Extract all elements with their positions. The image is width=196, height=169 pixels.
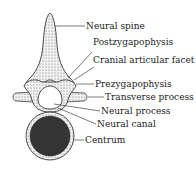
label-neural-process: Neural process — [101, 106, 171, 116]
label-cranial-articular-facet: Cranial articular facet — [93, 55, 195, 65]
label-neural-canal: Neural canal — [97, 119, 156, 129]
vertebra-diagram: Neural spine Postzygapophysis Cranial ar… — [0, 0, 196, 169]
label-transverse-process: Transverse process — [105, 92, 194, 102]
label-prezygapophysis: Prezygapophysis — [95, 79, 172, 89]
neural-spine-shape — [26, 13, 74, 86]
label-centrum: Centrum — [85, 135, 126, 145]
label-neural-spine: Neural spine — [86, 21, 145, 31]
label-postzygapophysis: Postzygapophysis — [93, 37, 174, 47]
